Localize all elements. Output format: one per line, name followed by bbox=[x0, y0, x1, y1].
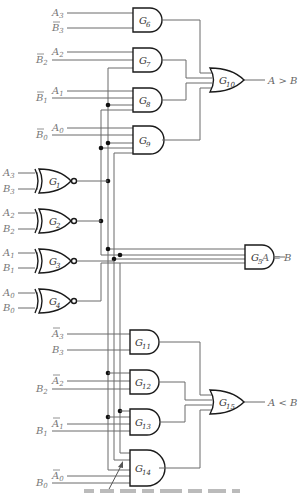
comparator-diagram: G 6 G 7 G 8 G 9 G 10 A > B bbox=[0, 0, 298, 493]
gate-g3: G 3 bbox=[35, 249, 77, 273]
xnor-inputs bbox=[18, 173, 38, 308]
input-label-a0: A0 bbox=[2, 287, 15, 300]
gate-g11: G 11 bbox=[130, 330, 159, 354]
input-label-a1-bar: A1 bbox=[51, 418, 64, 431]
gate-g1: G 1 bbox=[35, 169, 77, 193]
svg-text:13: 13 bbox=[142, 423, 151, 431]
svg-text:10: 10 bbox=[226, 81, 235, 89]
input-label-b1: B1 bbox=[35, 425, 48, 438]
gate-g13: G 13 bbox=[130, 409, 160, 435]
svg-text:6: 6 bbox=[146, 21, 151, 29]
gate-g8: G 8 bbox=[133, 88, 162, 112]
output-a-less-b: A < B bbox=[267, 397, 297, 408]
input-label-b0-bar: B0 bbox=[35, 129, 48, 142]
gate-g9: G 9 bbox=[133, 126, 164, 154]
input-label-a3: A3 bbox=[2, 167, 15, 180]
input-label-b1-bar: B1 bbox=[35, 92, 48, 105]
input-label-b2: B2 bbox=[2, 223, 15, 236]
input-label-b1: B1 bbox=[2, 262, 15, 275]
gate-g12: G 12 bbox=[130, 370, 159, 394]
input-label-b3: B3 bbox=[51, 344, 64, 357]
input-label-a2-bar: A2 bbox=[51, 375, 64, 388]
input-labels: A3B3A2B2A1B1A0B0A3B3A2B2A1B1A0B0A3B3A2B2… bbox=[2, 7, 64, 490]
gate-g2: G 2 bbox=[35, 209, 77, 233]
input-label-a0: A0 bbox=[51, 122, 64, 135]
svg-text:8: 8 bbox=[146, 101, 151, 109]
gate-g7: G 7 bbox=[133, 48, 162, 72]
input-label-a2: A2 bbox=[2, 207, 15, 220]
wires-upper-inputs bbox=[52, 13, 133, 135]
input-label-a2: A2 bbox=[51, 46, 64, 59]
svg-text:15: 15 bbox=[226, 403, 235, 411]
input-label-a3-bar: A3 bbox=[51, 328, 64, 341]
input-label-a1: A1 bbox=[2, 247, 15, 260]
input-label-b2: B2 bbox=[35, 383, 48, 396]
input-label-a0-bar: A0 bbox=[51, 470, 64, 483]
svg-text:14: 14 bbox=[142, 469, 151, 477]
svg-text:9: 9 bbox=[146, 141, 151, 149]
output-a-equal-b-label: A = B bbox=[261, 252, 291, 263]
svg-text:7: 7 bbox=[146, 61, 151, 69]
input-label-a3: A3 bbox=[51, 7, 64, 20]
svg-text:1: 1 bbox=[56, 182, 60, 190]
input-label-a1: A1 bbox=[51, 85, 64, 98]
input-label-b0: B0 bbox=[2, 302, 15, 315]
svg-text:11: 11 bbox=[142, 343, 151, 351]
pointer-arrow bbox=[107, 461, 123, 493]
gate-g10: G 10 bbox=[210, 68, 244, 92]
svg-text:4: 4 bbox=[55, 302, 60, 310]
gate-g4: G 4 bbox=[35, 289, 77, 313]
svg-text:12: 12 bbox=[142, 383, 151, 391]
output-a-greater-b: A > B bbox=[267, 75, 297, 86]
caption-cutoff bbox=[84, 489, 240, 493]
input-label-b2-bar: B2 bbox=[35, 54, 48, 67]
wires-to-g15 bbox=[159, 342, 265, 468]
gate-g6: G 6 bbox=[133, 8, 162, 32]
input-label-b3: B3 bbox=[2, 183, 15, 196]
input-label-b3-bar: B3 bbox=[51, 22, 64, 35]
input-label-b0: B0 bbox=[35, 477, 48, 490]
svg-text:2: 2 bbox=[55, 222, 61, 230]
gate-g15: G 15 bbox=[210, 390, 244, 414]
svg-text:3: 3 bbox=[56, 262, 61, 270]
